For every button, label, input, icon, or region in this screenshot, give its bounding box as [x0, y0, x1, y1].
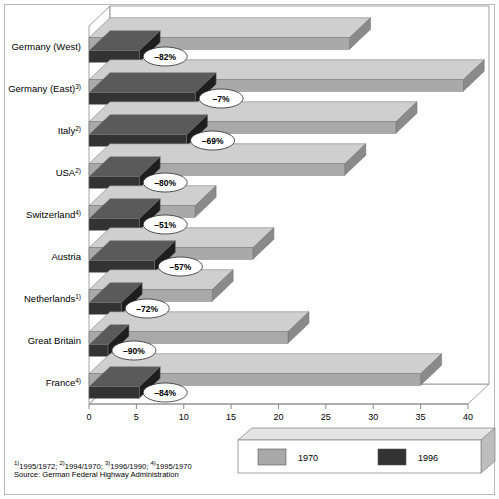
percent-callout: –72% — [125, 299, 169, 318]
percent-callout: –7% — [199, 89, 243, 108]
legend-label: 1996 — [418, 453, 438, 463]
category-label: Great Britain — [28, 335, 81, 346]
category-label: Germany (West) — [11, 41, 81, 52]
percent-callout: –90% — [112, 341, 156, 360]
category-label: USA2) — [56, 167, 81, 178]
percent-callout: –69% — [191, 131, 235, 150]
svg-text:–69%: –69% — [202, 136, 224, 146]
percent-callout: –84% — [143, 383, 187, 402]
x-tick-label: 10 — [179, 412, 189, 422]
svg-text:–84%: –84% — [154, 388, 176, 398]
percent-callout: –57% — [158, 257, 202, 276]
svg-text:–72%: –72% — [136, 304, 158, 314]
x-tick-label: 0 — [86, 412, 91, 422]
legend-swatch — [258, 449, 286, 465]
svg-text:–7%: –7% — [213, 94, 230, 104]
chart-legend: 19701996 — [238, 428, 495, 473]
source-attribution: Source: German Federal Highway Administr… — [14, 470, 179, 479]
bar-3d — [89, 115, 208, 146]
x-tick-label: 20 — [273, 412, 283, 422]
x-tick-label: 15 — [226, 412, 236, 422]
x-axis: 0510152025303540 — [86, 404, 473, 422]
percent-callout: –51% — [143, 215, 187, 234]
legend-label: 1970 — [298, 453, 318, 463]
category-labels: Germany (West)Germany (East)3)Italy2)USA… — [8, 41, 82, 388]
bar-3d — [89, 73, 216, 105]
svg-text:–80%: –80% — [154, 178, 176, 188]
x-tick-label: 40 — [463, 412, 473, 422]
category-label: Netherlands1) — [24, 293, 81, 304]
x-tick-label: 35 — [416, 412, 426, 422]
x-tick-label: 25 — [321, 412, 331, 422]
x-tick-label: 30 — [368, 412, 378, 422]
chart-screenshot: Fatalities per billion vehicle miles –82… — [0, 0, 499, 499]
svg-text:–51%: –51% — [154, 220, 176, 230]
category-label: Italy2) — [58, 125, 81, 136]
svg-text:–90%: –90% — [123, 346, 145, 356]
svg-text:–57%: –57% — [170, 262, 192, 272]
x-tick-label: 5 — [134, 412, 139, 422]
category-label: France4) — [46, 377, 81, 388]
percent-callout: –82% — [143, 47, 187, 66]
bar-chart: –82%–7%–69%–80%–51%–57%–72%–90%–84% 0510… — [0, 0, 499, 499]
category-label: Austria — [51, 251, 81, 262]
legend-swatch — [378, 449, 406, 465]
category-label: Switzerland4) — [26, 209, 81, 220]
svg-text:–82%: –82% — [154, 52, 176, 62]
category-label: Germany (East)3) — [8, 83, 81, 94]
percent-callout: –80% — [143, 173, 187, 192]
